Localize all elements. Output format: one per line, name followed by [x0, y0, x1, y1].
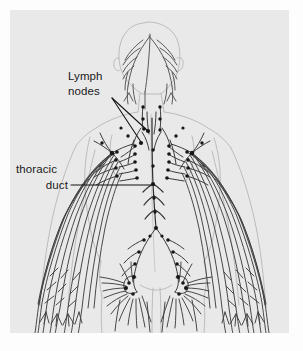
label-lymph-nodes-line1: Lymph: [68, 70, 103, 82]
label-lymph-nodes-line2: nodes: [68, 85, 100, 97]
lymphatic-system-figure: Lymph nodes thoracic duct: [0, 0, 303, 351]
label-thoracic-duct-line1: thoracic: [16, 163, 57, 175]
label-thoracic-duct-line2: duct: [46, 179, 69, 191]
figure-root: Lymph nodes thoracic duct: [0, 0, 303, 351]
